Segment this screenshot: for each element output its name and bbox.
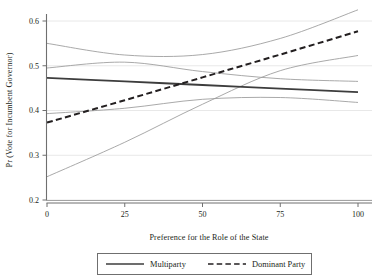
y-tick-label: 0.3 — [29, 151, 39, 160]
marginal-effects-chart: 0.20.30.40.50.6 0255075100 Pr (Vote for … — [0, 0, 376, 280]
x-tick-label: 50 — [199, 210, 207, 219]
x-axis-title: Preference for the Role of the State — [149, 233, 268, 242]
x-tick-label: 25 — [121, 210, 129, 219]
chart-svg: 0.20.30.40.50.6 0255075100 Pr (Vote for … — [0, 0, 376, 280]
x-tick-label: 100 — [352, 210, 364, 219]
x-tick-label: 0 — [45, 210, 49, 219]
x-tick-label: 75 — [276, 210, 284, 219]
y-tick-label: 0.6 — [29, 17, 39, 26]
y-tick-label: 0.5 — [29, 62, 39, 71]
y-tick-label: 0.4 — [29, 106, 39, 115]
legend: Multiparty Dominant Party — [98, 254, 312, 275]
y-tick-label: 0.2 — [29, 196, 39, 205]
y-axis-title: Pr (Vote for Incumbent Governor) — [5, 52, 14, 167]
legend-label-dominant-party: Dominant Party — [252, 260, 306, 269]
legend-label-multiparty: Multiparty — [150, 260, 187, 269]
